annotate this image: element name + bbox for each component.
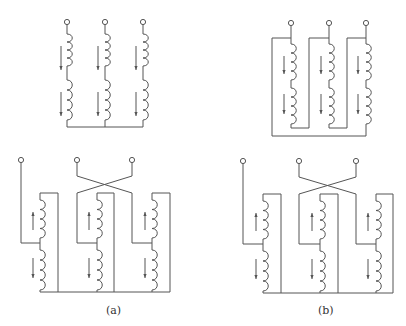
arrow-down-icon (143, 274, 146, 278)
arrow-down-icon (282, 70, 285, 74)
coil-icon (143, 34, 148, 66)
arrow-down-icon (319, 70, 322, 74)
coil-icon (291, 44, 296, 80)
coil-icon (263, 251, 268, 291)
terminal-icon (240, 158, 245, 163)
coil-icon (366, 88, 371, 124)
caption-b: (b) (318, 304, 334, 317)
zigzag-frame (152, 193, 170, 292)
terminal-icon (64, 19, 69, 24)
arrow-down-icon (87, 274, 90, 278)
coil-icon (366, 44, 371, 80)
coil-icon (152, 200, 157, 238)
arrow-up-icon (254, 213, 257, 217)
terminal-icon (129, 157, 134, 162)
coil-icon (152, 250, 157, 290)
coil-icon (105, 34, 110, 66)
coil-icon (67, 80, 72, 120)
arrow-up-icon (87, 212, 90, 216)
coil-icon (97, 250, 102, 290)
coil-icon (329, 88, 334, 124)
terminal-icon (296, 158, 301, 163)
panel-a-zigzag (18, 157, 170, 292)
coil-icon (40, 250, 45, 290)
arrow-up-icon (143, 212, 146, 216)
coil-icon (40, 200, 45, 238)
zigzag-frame (376, 194, 393, 293)
arrow-down-icon (310, 275, 313, 279)
arrow-down-icon (254, 275, 257, 279)
terminal-icon (74, 157, 79, 162)
arrow-down-icon (59, 66, 62, 70)
panel-top-right-delta (272, 20, 371, 136)
panel-b-zigzag (240, 158, 393, 293)
winding-diagram-canvas (0, 0, 406, 326)
terminal-icon (18, 157, 23, 162)
coil-icon (97, 200, 102, 238)
terminal-icon (326, 20, 331, 25)
delta-closing-link (272, 38, 366, 136)
zigzag-frame (263, 194, 281, 293)
coil-icon (143, 80, 148, 120)
arrow-down-icon (356, 110, 359, 114)
coil-icon (329, 44, 334, 80)
arrow-down-icon (59, 112, 62, 116)
arrow-down-icon (282, 110, 285, 114)
zigzag-frame (320, 194, 338, 293)
arrow-down-icon (366, 275, 369, 279)
coil-icon (376, 251, 381, 291)
coil-icon (320, 201, 325, 239)
arrow-up-icon (31, 212, 34, 216)
arrow-down-icon (134, 66, 137, 70)
arrow-down-icon (356, 70, 359, 74)
coil-icon (263, 201, 268, 239)
terminal-icon (140, 19, 145, 24)
arrow-up-icon (310, 213, 313, 217)
terminal-icon (102, 19, 107, 24)
zigzag-frame (40, 193, 58, 292)
arrow-down-icon (31, 274, 34, 278)
terminal-icon (353, 158, 358, 163)
coil-icon (67, 34, 72, 66)
arrow-up-icon (366, 213, 369, 217)
arrow-down-icon (319, 110, 322, 114)
arrow-down-icon (96, 66, 99, 70)
arrow-down-icon (96, 112, 99, 116)
terminal-icon (288, 20, 293, 25)
terminal-icon (363, 20, 368, 25)
coil-icon (376, 201, 381, 239)
zigzag-frame (97, 193, 114, 292)
coil-icon (291, 88, 296, 124)
coil-icon (105, 80, 110, 120)
panel-top-left-wye (59, 19, 148, 127)
caption-a: (a) (106, 304, 121, 317)
coil-icon (320, 251, 325, 291)
arrow-down-icon (134, 112, 137, 116)
